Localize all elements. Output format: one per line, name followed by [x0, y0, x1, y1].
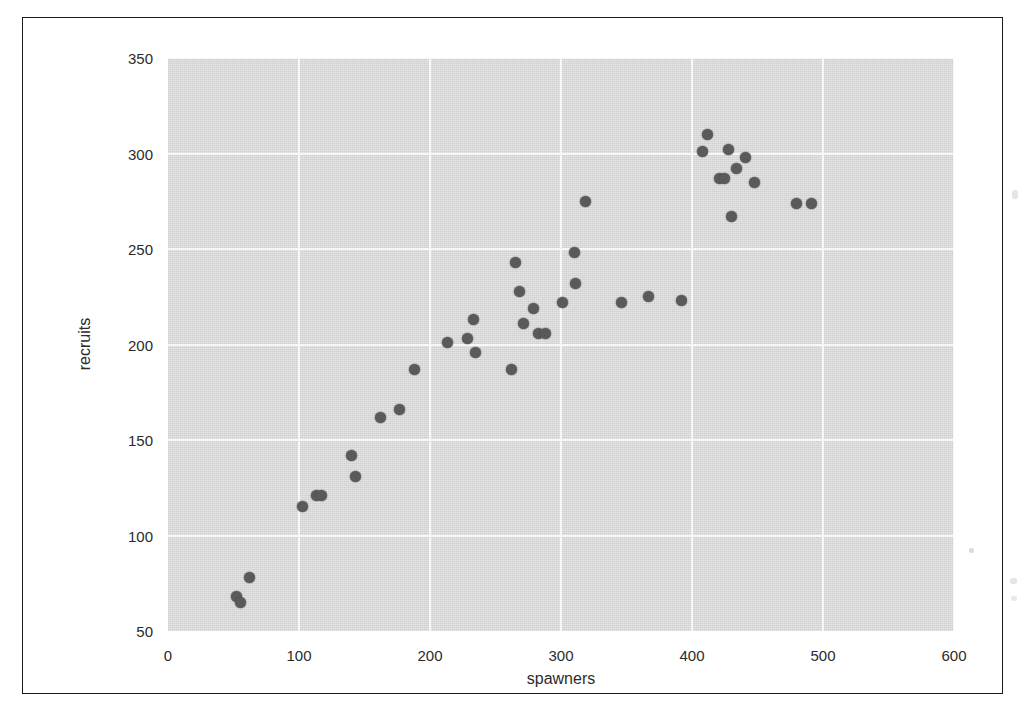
data-point [569, 247, 580, 258]
y-tick-label: 250 [101, 241, 153, 258]
data-point [394, 404, 405, 415]
data-point [350, 471, 361, 482]
data-point [719, 173, 730, 184]
data-point [702, 129, 713, 140]
y-tick-label: 300 [101, 145, 153, 162]
gridline-horizontal [168, 153, 954, 155]
data-point [244, 572, 255, 583]
y-tick-label: 50 [101, 623, 153, 640]
data-point [375, 412, 386, 423]
figure-page: 50100150200250300350 0100200300400500600… [0, 0, 1029, 711]
x-tick-label: 400 [679, 647, 704, 664]
y-axis-label: recruits [76, 318, 94, 370]
data-point [570, 278, 581, 289]
data-point [740, 152, 751, 163]
y-tick-label: 350 [101, 50, 153, 67]
x-tick-label: 500 [810, 647, 835, 664]
data-point [297, 501, 308, 512]
gridline-horizontal [168, 439, 954, 441]
gridline-horizontal [168, 535, 954, 537]
gridline-horizontal [168, 344, 954, 346]
data-point [580, 196, 591, 207]
scan-speckle [969, 548, 974, 553]
data-point [676, 295, 687, 306]
x-tick-label: 0 [164, 647, 172, 664]
data-point [616, 297, 627, 308]
data-point [409, 364, 420, 375]
gridline-horizontal [168, 248, 954, 250]
y-tick-label: 200 [101, 336, 153, 353]
x-tick-label: 300 [548, 647, 573, 664]
data-point [316, 490, 327, 501]
data-point [749, 177, 760, 188]
data-point [506, 364, 517, 375]
data-point [731, 163, 742, 174]
data-point [726, 211, 737, 222]
x-tick-label: 600 [941, 647, 966, 664]
data-point [470, 347, 481, 358]
scan-speckle [1010, 578, 1017, 584]
y-tick-label: 150 [101, 432, 153, 449]
scan-speckle [1011, 596, 1017, 601]
x-tick-label: 200 [417, 647, 442, 664]
data-point [468, 314, 479, 325]
gridline-horizontal [168, 58, 954, 59]
scatter-plot-panel [168, 58, 954, 631]
data-point [235, 597, 246, 608]
figure-frame: 50100150200250300350 0100200300400500600… [22, 17, 1003, 694]
data-point [557, 297, 568, 308]
data-point [540, 328, 551, 339]
data-point [510, 257, 521, 268]
data-point [643, 291, 654, 302]
data-point [791, 198, 802, 209]
data-point [442, 337, 453, 348]
data-point [528, 303, 539, 314]
data-point [697, 146, 708, 157]
data-point [346, 450, 357, 461]
x-axis-label: spawners [527, 670, 595, 688]
y-tick-label: 100 [101, 527, 153, 544]
data-point [518, 318, 529, 329]
data-point [806, 198, 817, 209]
x-tick-label: 100 [286, 647, 311, 664]
data-point [514, 286, 525, 297]
scan-speckle [1012, 190, 1018, 199]
